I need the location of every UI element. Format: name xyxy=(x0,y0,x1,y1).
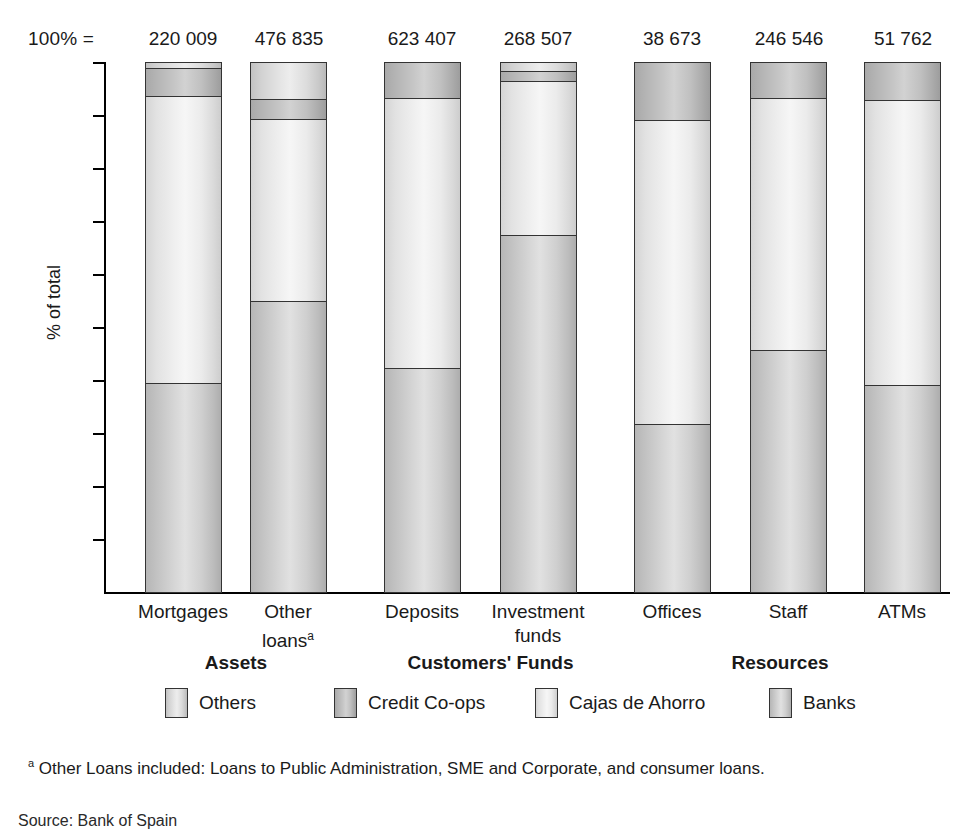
legend-item-credit-co-ops[interactable]: Credit Co-ops xyxy=(334,688,485,718)
legend-swatch-others-icon xyxy=(165,688,188,718)
bar-segment-cajas-de-ahorro[interactable] xyxy=(251,119,326,300)
y-axis-title: % of total xyxy=(44,243,65,363)
legend-item-others[interactable]: Others xyxy=(165,688,256,718)
x-axis-label-mortgages: Mortgages xyxy=(123,600,243,624)
y-axis-tick xyxy=(93,221,105,223)
legend-label-others: Others xyxy=(199,692,256,714)
bar-segment-banks[interactable] xyxy=(146,383,221,592)
x-axis-label-atms: ATMs xyxy=(842,600,962,624)
x-axis-label-investment-funds: Investment funds xyxy=(477,600,599,648)
y-axis-tick xyxy=(93,274,105,276)
bar-segment-banks[interactable] xyxy=(385,368,460,592)
bar-segment-credit-co-ops[interactable] xyxy=(501,71,576,81)
bar-mortgages[interactable] xyxy=(145,62,222,593)
group-label-assets: Assets xyxy=(176,652,296,674)
bar-offices[interactable] xyxy=(634,62,711,593)
y-axis-tick xyxy=(93,62,105,64)
y-axis-tick xyxy=(93,380,105,382)
y-axis-tick xyxy=(93,539,105,541)
bar-investment-funds[interactable] xyxy=(500,62,577,593)
legend-item-banks[interactable]: Banks xyxy=(769,688,856,718)
bar-segment-credit-co-ops[interactable] xyxy=(751,63,826,98)
legend-label-banks: Banks xyxy=(803,692,856,714)
bar-deposits[interactable] xyxy=(384,62,461,593)
chart-plot-area: % of total xyxy=(0,0,970,600)
bar-segment-cajas-de-ahorro[interactable] xyxy=(751,98,826,350)
x-axis-label-deposits: Deposits xyxy=(362,600,482,624)
footnote-marker-other-loans: a xyxy=(307,629,314,643)
chart-legend: Others Credit Co-ops Cajas de Ahorro Ban… xyxy=(0,688,970,728)
x-axis-label-other-loans: Other loansa xyxy=(228,600,348,653)
legend-label-cajas-de-ahorro: Cajas de Ahorro xyxy=(569,692,705,714)
legend-swatch-banks-icon xyxy=(769,688,792,718)
chart-footnote: a Other Loans included: Loans to Public … xyxy=(28,757,765,779)
bar-segment-others[interactable] xyxy=(501,63,576,71)
bar-segment-credit-co-ops[interactable] xyxy=(146,68,221,96)
legend-item-cajas-de-ahorro[interactable]: Cajas de Ahorro xyxy=(535,688,705,718)
y-axis-tick xyxy=(93,486,105,488)
x-axis-label-staff: Staff xyxy=(728,600,848,624)
y-axis-tick xyxy=(93,115,105,117)
group-label-customers-funds: Customers' Funds xyxy=(403,652,578,674)
footnote-marker: a xyxy=(28,757,34,769)
bar-segment-cajas-de-ahorro[interactable] xyxy=(501,81,576,235)
bar-segment-credit-co-ops[interactable] xyxy=(385,63,460,98)
bar-segment-banks[interactable] xyxy=(865,385,940,592)
legend-label-credit-co-ops: Credit Co-ops xyxy=(368,692,485,714)
bar-segment-credit-co-ops[interactable] xyxy=(251,99,326,119)
group-label-resources: Resources xyxy=(715,652,845,674)
bar-segment-banks[interactable] xyxy=(751,350,826,592)
y-axis-tick xyxy=(93,327,105,329)
chart-source: Source: Bank of Spain xyxy=(18,812,177,830)
x-axis-label-offices: Offices xyxy=(612,600,732,624)
bar-segment-others[interactable] xyxy=(251,63,326,99)
bar-segment-cajas-de-ahorro[interactable] xyxy=(865,100,940,385)
bar-segment-banks[interactable] xyxy=(635,424,710,592)
bar-segment-cajas-de-ahorro[interactable] xyxy=(385,98,460,368)
bar-segment-cajas-de-ahorro[interactable] xyxy=(635,120,710,424)
bar-segment-cajas-de-ahorro[interactable] xyxy=(146,96,221,383)
bar-segment-credit-co-ops[interactable] xyxy=(635,63,710,120)
x-axis-label-other-loans-text: Other loans xyxy=(262,601,312,651)
bar-atms[interactable] xyxy=(864,62,941,593)
y-axis-tick xyxy=(93,168,105,170)
y-axis-tick xyxy=(93,433,105,435)
bar-segment-banks[interactable] xyxy=(251,301,326,592)
bar-other-loans[interactable] xyxy=(250,62,327,593)
legend-swatch-cajas-de-ahorro-icon xyxy=(535,688,558,718)
bar-segment-banks[interactable] xyxy=(501,235,576,592)
bar-staff[interactable] xyxy=(750,62,827,593)
bar-segment-credit-co-ops[interactable] xyxy=(865,63,940,100)
legend-swatch-credit-co-ops-icon xyxy=(334,688,357,718)
footnote-text: Other Loans included: Loans to Public Ad… xyxy=(39,759,765,778)
